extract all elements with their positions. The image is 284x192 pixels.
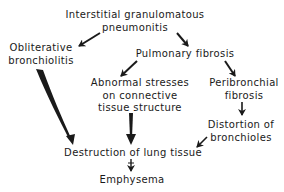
arrow-destruction-to-emphysema (128, 159, 134, 171)
node-obliterative-bronchiolitis: Obliterative bronchiolitis (8, 42, 73, 67)
arrow-igp-to-obliterative (79, 33, 100, 46)
arrow-pf-to-abnormal-stresses (121, 61, 137, 76)
node-destruction-of-lung-tissue: Destruction of lung tissue (64, 147, 202, 160)
node-label-line: pneumonitis (66, 22, 205, 35)
node-label-line: bronchioles (208, 132, 274, 145)
diagram-canvas: Interstitial granulomatous pneumonitis O… (0, 0, 284, 192)
node-label-line: tissue structure (91, 102, 189, 115)
node-emphysema: Emphysema (99, 174, 164, 187)
node-label-line: Distortion of (208, 119, 274, 132)
node-label-line: Emphysema (99, 174, 164, 187)
node-peribronchial-fibrosis: Peribronchial fibrosis (209, 77, 278, 102)
node-label-line: Destruction of lung tissue (64, 147, 202, 160)
node-label-line: fibrosis (209, 90, 278, 103)
arrow-distortion-to-destruction (197, 137, 207, 147)
node-label-line: Interstitial granulomatous (66, 9, 205, 22)
node-label-line: on connective (91, 90, 189, 103)
arrow-obliterative-to-destruction (36, 69, 75, 145)
node-label-line: bronchiolitis (8, 55, 73, 68)
node-label-line: Pulmonary fibrosis (136, 48, 235, 61)
node-interstitial-granulomatous-pneumonitis: Interstitial granulomatous pneumonitis (66, 9, 205, 34)
arrow-igp-to-pulmonary-fibrosis (177, 33, 188, 46)
arrow-pf-to-peribronchial (225, 61, 235, 76)
node-pulmonary-fibrosis: Pulmonary fibrosis (136, 48, 235, 61)
node-label-line: Peribronchial (209, 77, 278, 90)
node-label-line: Abnormal stresses (91, 77, 189, 90)
node-label-line: Obliterative (8, 42, 73, 55)
arrow-abnormal-stresses-to-destruction (126, 113, 136, 145)
node-abnormal-stresses: Abnormal stresses on connective tissue s… (91, 77, 189, 115)
node-distortion-of-bronchioles: Distortion of bronchioles (208, 119, 274, 144)
